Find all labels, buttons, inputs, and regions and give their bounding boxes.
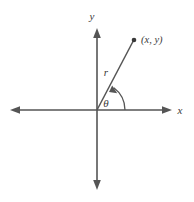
angle-theta-label: θ — [103, 97, 109, 109]
x-axis-group — [10, 106, 172, 114]
angle-arc-group — [109, 85, 125, 110]
y-axis-label: y — [89, 10, 95, 22]
polar-coordinate-figure: y x (x, y) r θ — [0, 0, 194, 202]
radius-label: r — [104, 66, 109, 78]
x-axis-left-arrowhead — [10, 106, 20, 114]
y-axis-top-arrowhead — [93, 28, 101, 38]
point-marker-dot — [132, 38, 137, 43]
x-axis-label: x — [177, 104, 183, 116]
point-coordinates-label: (x, y) — [141, 34, 163, 46]
x-axis-right-arrowhead — [162, 106, 172, 114]
coordinate-diagram-canvas: y x (x, y) r θ — [0, 0, 194, 202]
y-axis-bottom-arrowhead — [93, 180, 101, 190]
